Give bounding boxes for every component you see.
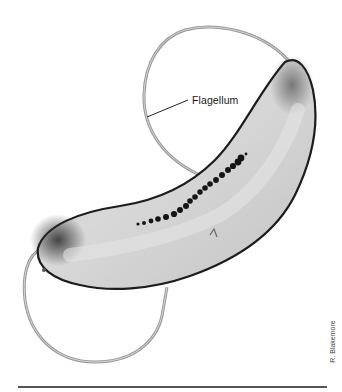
bacterium-illustration bbox=[0, 0, 342, 392]
flagellum-label: Flagellum bbox=[192, 94, 238, 106]
label-leader-line bbox=[147, 100, 188, 117]
micrograph-figure: Flagellum R. Blakemore bbox=[0, 0, 342, 392]
photo-credit: R. Blakemore bbox=[329, 312, 336, 372]
bottom-rule-divider bbox=[18, 386, 327, 388]
